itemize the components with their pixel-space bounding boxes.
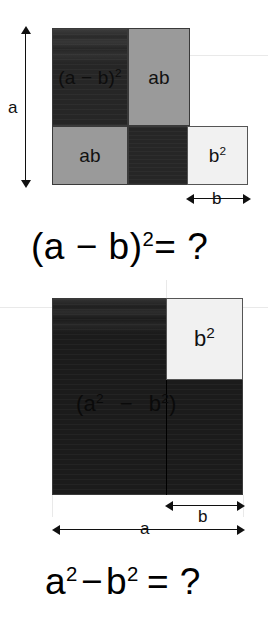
equation-a-squared-minus-b-squared: a2−b2= ? [45, 563, 201, 600]
arrow-right-icon [237, 525, 245, 535]
arrow-left-icon [52, 525, 60, 535]
region-ab-top-right-label: ab [148, 68, 170, 87]
arrow-down-icon [21, 180, 31, 188]
dimension-width-b-label-2: b [198, 508, 207, 525]
region-b-squared-corner: b2 [166, 298, 243, 380]
dimension-height-a-label: a [8, 99, 17, 116]
region-ab-bottom-left: ab [52, 126, 128, 185]
arrow-up-icon [21, 26, 31, 34]
region-ab-bottom-left-label: ab [79, 146, 101, 165]
region-ab-top-right: ab [128, 28, 190, 126]
region-b-squared-corner-label: b2 [194, 328, 215, 350]
region-b-squared-outside-label: b2 [209, 146, 227, 165]
dimension-height-a-line [25, 33, 26, 181]
arrow-right-icon [243, 194, 251, 204]
dimension-width-b-label: b [212, 190, 221, 207]
arrow-right-icon [237, 501, 245, 511]
region-a-squared-minus-b-squared-label: (a2−b2) [76, 393, 177, 415]
dimension-width-b-line-2 [171, 505, 239, 506]
equation-a-minus-b-squared: (a − b)2= ? [31, 228, 208, 265]
region-b-squared-overlap [128, 126, 190, 185]
arrow-left-icon [186, 194, 194, 204]
guide-line-vertical-left [52, 495, 53, 517]
figure-canvas: (a − b)2 ab ab b2 a b [0, 0, 268, 625]
region-b-squared-outside: b2 [187, 126, 248, 185]
arrow-left-icon [165, 501, 173, 511]
region-a-minus-b-squared-label: (a − b)2 [58, 68, 122, 87]
dimension-width-a-label: a [140, 520, 149, 537]
region-a-minus-b-squared: (a − b)2 [52, 28, 128, 126]
